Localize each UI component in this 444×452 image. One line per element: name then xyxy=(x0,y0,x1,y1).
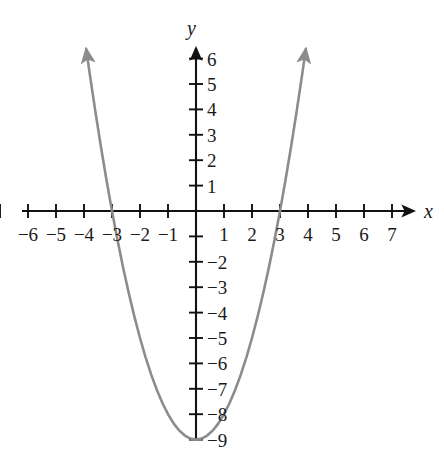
y-tick-label: −9 xyxy=(207,430,227,449)
x-tick-label: −1 xyxy=(158,225,178,244)
x-tick-label: 4 xyxy=(303,225,313,244)
y-tick-label: 2 xyxy=(207,151,217,170)
y-tick-label: −6 xyxy=(207,354,227,373)
y-tick-label: 6 xyxy=(207,49,217,68)
x-tick-label: 5 xyxy=(331,225,341,244)
x-tick-label: −3 xyxy=(102,225,122,244)
x-tick-label: 3 xyxy=(275,225,285,244)
y-tick-label: 4 xyxy=(207,100,217,119)
graph-figure: −6−5−4−3−2−11234567 654321−2−3−4−5−6−7−8… xyxy=(0,0,444,452)
x-tick-label: 1 xyxy=(219,225,229,244)
x-tick-label: 2 xyxy=(247,225,257,244)
x-axis-label: x xyxy=(424,201,433,221)
x-tick-label: −5 xyxy=(46,225,66,244)
y-tick-label: −5 xyxy=(207,329,227,348)
x-tick-label: −6 xyxy=(18,225,38,244)
x-tick-label: −2 xyxy=(130,225,150,244)
y-tick-label: −7 xyxy=(207,379,227,398)
y-tick-label: −8 xyxy=(207,405,227,424)
y-tick-label: −2 xyxy=(207,252,227,271)
y-tick-label: −4 xyxy=(207,303,227,322)
y-axis-label: y xyxy=(187,18,196,38)
x-tick-label: 6 xyxy=(359,225,369,244)
y-tick-label: 3 xyxy=(207,125,217,144)
x-tick-label: −4 xyxy=(74,225,94,244)
y-tick-label: −3 xyxy=(207,278,227,297)
y-tick-label: 1 xyxy=(207,176,217,195)
y-tick-label: 5 xyxy=(207,75,217,94)
x-tick-label: 7 xyxy=(387,225,397,244)
